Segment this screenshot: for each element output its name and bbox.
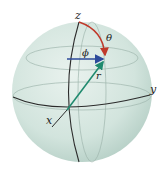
x-axis-label: x xyxy=(46,114,53,127)
y-axis-label: y xyxy=(149,83,157,96)
theta-label: θ xyxy=(106,32,112,43)
phi-label: ϕ xyxy=(82,47,89,58)
sphere-figure: z y x θ ϕ r xyxy=(0,0,168,171)
bloch-sphere-diagram: z y x θ ϕ r xyxy=(0,0,168,171)
z-axis-label: z xyxy=(74,9,81,22)
